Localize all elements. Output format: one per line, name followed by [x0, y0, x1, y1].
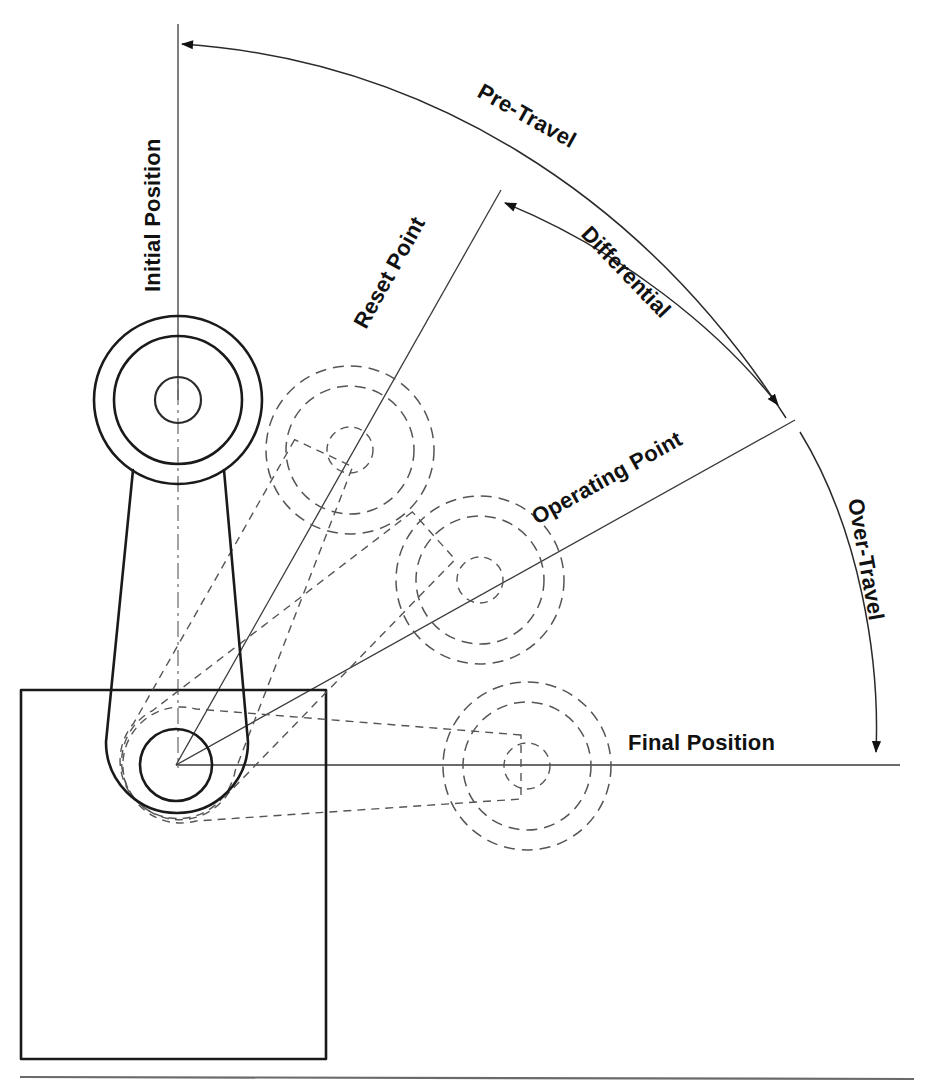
label-initial-position: Initial Position [140, 138, 165, 292]
limit-switch-travel-diagram: Initial Position Reset Point Pre-Travel … [0, 0, 929, 1091]
label-final-position: Final Position [628, 730, 775, 755]
